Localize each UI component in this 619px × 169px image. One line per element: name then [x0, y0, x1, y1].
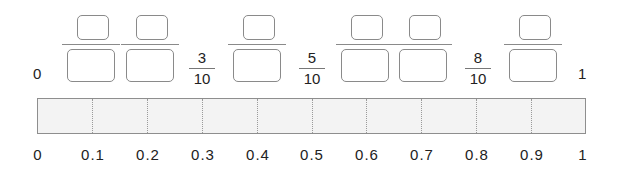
fraction-5-10: 5 10 [299, 50, 325, 87]
decimal-label: 0.4 [246, 147, 270, 163]
denominator-input-box[interactable] [67, 49, 115, 82]
denominator-input-box[interactable] [399, 49, 447, 82]
fraction-bar [121, 44, 179, 45]
decimal-label: 0.5 [300, 147, 324, 163]
denominator-input-box[interactable] [126, 49, 174, 82]
fraction-denominator: 10 [299, 71, 325, 87]
division-line [366, 99, 367, 133]
division-line [92, 99, 93, 133]
numerator-input-box[interactable] [243, 15, 275, 40]
tenths-strip [37, 98, 586, 134]
fraction-bar [336, 44, 394, 45]
fraction-bar [299, 68, 325, 69]
fraction-bar [62, 44, 120, 45]
fraction-numerator: 8 [465, 50, 491, 66]
numerator-input-box[interactable] [136, 15, 168, 40]
division-line [421, 99, 422, 133]
decimal-label: 0.9 [520, 147, 544, 163]
division-line [531, 99, 532, 133]
fraction-bar [189, 68, 215, 69]
division-line [147, 99, 148, 133]
denominator-input-box[interactable] [509, 49, 557, 82]
fraction-numerator: 3 [189, 50, 215, 66]
fraction-bar [465, 68, 491, 69]
decimal-label: 0 [33, 147, 42, 163]
numerator-input-box[interactable] [77, 15, 109, 40]
numerator-input-box[interactable] [519, 15, 551, 40]
division-line [476, 99, 477, 133]
fraction-8-10: 8 10 [465, 50, 491, 87]
division-line [312, 99, 313, 133]
top-end-label: 1 [578, 66, 586, 82]
denominator-input-box[interactable] [233, 49, 281, 82]
decimal-label: 0.8 [465, 147, 489, 163]
decimal-label: 0.3 [191, 147, 215, 163]
division-line [257, 99, 258, 133]
fraction-denominator: 10 [189, 71, 215, 87]
denominator-input-box[interactable] [341, 49, 389, 82]
fraction-bar [504, 44, 562, 45]
numerator-input-box[interactable] [409, 15, 441, 40]
fraction-bar [394, 44, 452, 45]
fraction-bar [228, 44, 286, 45]
decimal-label: 0.2 [136, 147, 160, 163]
decimal-label: 1 [578, 147, 587, 163]
numerator-input-box[interactable] [351, 15, 383, 40]
fraction-numerator: 5 [299, 50, 325, 66]
top-start-label: 0 [33, 66, 41, 82]
decimal-label: 0.6 [355, 147, 379, 163]
fraction-3-10: 3 10 [189, 50, 215, 87]
division-line [202, 99, 203, 133]
fraction-denominator: 10 [465, 71, 491, 87]
decimal-label: 0.1 [81, 147, 105, 163]
decimal-label: 0.7 [410, 147, 434, 163]
